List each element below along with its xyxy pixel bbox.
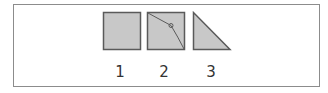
label-3: 3 [201,62,221,82]
shape-1-square [104,13,141,50]
label-2: 2 [154,62,174,82]
shape-3-triangle [194,13,231,50]
label-1: 1 [110,62,130,82]
shape-2-folded-square [148,13,185,50]
